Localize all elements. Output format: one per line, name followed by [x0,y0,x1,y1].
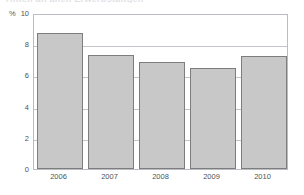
cut-off-title-text: Anteil an allen Erwerbstätigen [6,0,186,3]
x-tick-label-2007: 2007 [101,173,118,181]
y-axis-tick-labels: 0246810 [0,14,29,170]
x-axis-tick-labels: 20062007200820092010 [33,173,288,187]
bars-layer [34,15,287,169]
bar-2010 [241,56,287,169]
bar-2008 [139,62,185,169]
y-tick-label-10: 10 [21,10,29,18]
x-tick-label-2008: 2008 [152,173,169,181]
y-tick-label-6: 6 [25,73,29,81]
bar-2009 [190,68,236,169]
x-tick-label-2009: 2009 [203,173,220,181]
bar-2007 [88,55,134,169]
x-tick-label-2006: 2006 [50,173,67,181]
y-tick-label-4: 4 [25,104,29,112]
bar-chart-figure: Anteil an allen Erwerbstätigen % 0246810… [0,0,304,195]
x-tick-label-2010: 2010 [254,173,271,181]
y-tick-label-8: 8 [25,41,29,49]
y-tick-label-2: 2 [25,135,29,143]
bar-2006 [37,33,83,169]
plot-area [33,14,288,170]
y-tick-label-0: 0 [25,166,29,174]
